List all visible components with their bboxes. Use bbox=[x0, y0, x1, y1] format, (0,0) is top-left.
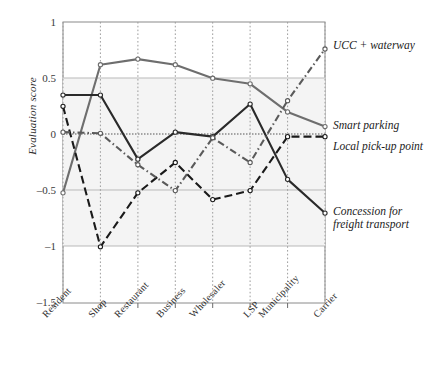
legend-concession-line2: freight transport bbox=[333, 218, 409, 230]
y-tick-0: 0 bbox=[51, 128, 57, 140]
series-2-point-3 bbox=[173, 160, 177, 164]
series-0-point-6 bbox=[285, 110, 289, 114]
series-2-point-2 bbox=[136, 191, 140, 195]
series-0-point-1 bbox=[98, 63, 102, 67]
series-1-point-6 bbox=[285, 177, 289, 181]
y-tick-0_5: 0.5 bbox=[42, 72, 56, 84]
series-2-point-4 bbox=[211, 197, 215, 201]
series-2-point-1 bbox=[98, 245, 102, 249]
series-0-point-5 bbox=[248, 82, 252, 86]
y-tick-1: 1 bbox=[51, 16, 57, 28]
series-2-point-6 bbox=[285, 135, 289, 139]
legend-label-smart-parking: Smart parking bbox=[333, 119, 399, 132]
series-1-point-2 bbox=[136, 157, 140, 161]
legend-label-concession: Concession for freight transport bbox=[333, 205, 409, 231]
series-1-point-5 bbox=[248, 102, 252, 106]
series-0-point-3 bbox=[173, 63, 177, 67]
series-2-point-0 bbox=[61, 104, 65, 108]
series-3-point-5 bbox=[248, 160, 252, 164]
series-1-point-0 bbox=[61, 93, 65, 97]
series-0-point-4 bbox=[211, 76, 215, 80]
series-0-point-2 bbox=[136, 57, 140, 61]
y-tick-neg0_5: –0.5 bbox=[37, 184, 56, 196]
series-3-point-4 bbox=[211, 136, 215, 140]
chart-figure: Evaluation score 1 0.5 0 –0.5 –1 –1.5 bbox=[0, 0, 435, 372]
legend-concession-line1: Concession for bbox=[333, 205, 402, 217]
legend-label-ucc-waterway: UCC + waterway bbox=[333, 39, 415, 52]
y-axis-label: Evaluation score bbox=[26, 46, 38, 186]
series-3-point-6 bbox=[285, 99, 289, 103]
y-tick-neg1: –1 bbox=[45, 240, 56, 252]
series-3-point-2 bbox=[136, 163, 140, 167]
series-3-point-3 bbox=[173, 189, 177, 193]
legend-label-local-pickup: Local pick-up point bbox=[333, 140, 423, 153]
series-2-point-5 bbox=[248, 189, 252, 193]
plot-svg bbox=[0, 0, 435, 372]
series-3-point-1 bbox=[98, 131, 102, 135]
series-0-point-0 bbox=[61, 191, 65, 195]
series-1-point-3 bbox=[173, 130, 177, 134]
series-3-point-0 bbox=[61, 130, 65, 134]
series-1-point-1 bbox=[98, 93, 102, 97]
